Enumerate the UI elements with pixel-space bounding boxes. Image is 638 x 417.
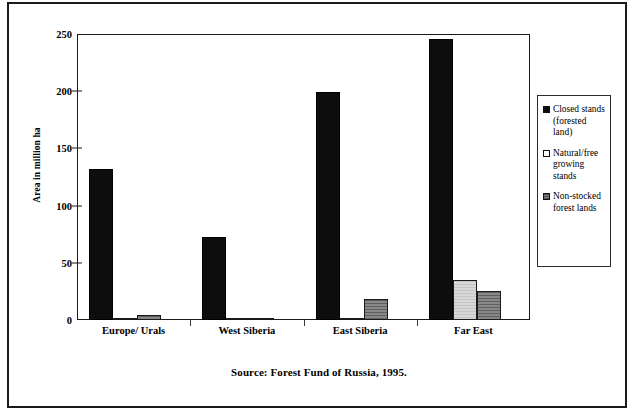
legend-swatch-icon (543, 150, 550, 157)
bar-group (304, 34, 417, 320)
x-axis-separator (417, 320, 418, 326)
bar-group (190, 34, 303, 320)
chart-legend: Closed stands (forested land)Natural/fre… (537, 95, 611, 267)
bar (226, 318, 250, 320)
y-tick-label: 250 (40, 29, 72, 40)
y-tick-label: 0 (40, 315, 72, 326)
bar (364, 299, 388, 320)
x-axis-label: Europe/ Urals (102, 325, 165, 336)
bar (89, 169, 113, 320)
x-axis-label: Far East (454, 325, 493, 336)
bar (316, 92, 340, 320)
legend-label: Closed stands (forested land) (553, 104, 606, 139)
bar (202, 237, 226, 321)
legend-item: Closed stands (forested land) (543, 104, 606, 139)
x-axis-separator (304, 320, 305, 326)
bar-group (77, 34, 190, 320)
legend-label: Natural/free growing stands (553, 148, 606, 183)
bar-group (417, 34, 530, 320)
figure-page: Area in million ha 050100150200250 Europ… (0, 0, 638, 417)
y-tick-label: 50 (40, 257, 72, 268)
bar (477, 291, 501, 320)
bar (137, 315, 161, 320)
y-tick-label: 100 (40, 200, 72, 211)
y-tick-label: 150 (40, 143, 72, 154)
bar-chart-figure: Area in million ha 050100150200250 Europ… (0, 0, 638, 417)
bar (250, 318, 274, 320)
legend-swatch-icon (543, 193, 550, 200)
bars-layer (77, 34, 530, 320)
x-axis-label: East Siberia (333, 325, 388, 336)
x-axis-separator (190, 320, 191, 326)
source-caption: Source: Forest Fund of Russia, 1995. (0, 366, 638, 378)
bar (429, 39, 453, 320)
bar (340, 318, 364, 320)
legend-swatch-icon (543, 106, 550, 113)
legend-label: Non-stocked forest lands (553, 191, 606, 214)
legend-item: Non-stocked forest lands (543, 191, 606, 214)
y-tick-label: 200 (40, 86, 72, 97)
bar (453, 280, 477, 320)
bar (113, 318, 137, 320)
x-axis-label: West Siberia (218, 325, 275, 336)
legend-item: Natural/free growing stands (543, 148, 606, 183)
